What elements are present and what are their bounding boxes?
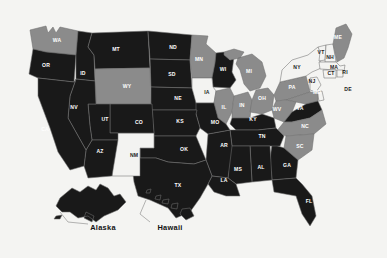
state-ND[interactable] [148, 31, 192, 60]
us-map-container: WAORIDMTWYNDSDNEMNWIIAMIILINOHPANYVTNHMA… [0, 0, 387, 258]
state-SD[interactable] [150, 59, 192, 88]
state-MS[interactable] [228, 146, 252, 184]
us-choropleth-map: WAORIDMTWYNDSDNEMNWIIAMIILINOHPANYVTNHMA… [0, 0, 387, 258]
state-RI[interactable] [337, 70, 343, 77]
state-IN[interactable] [232, 92, 252, 118]
state-AL[interactable] [250, 146, 272, 182]
state-MT[interactable] [88, 31, 150, 69]
state-WY[interactable] [95, 68, 151, 104]
state-TN[interactable] [230, 128, 284, 146]
inset-label-hawaii: Hawaii [157, 223, 182, 232]
state-CT[interactable] [323, 70, 336, 78]
state-NE[interactable] [151, 87, 197, 110]
state-KS[interactable] [152, 110, 200, 136]
state-IA[interactable] [192, 78, 216, 103]
state-CO[interactable] [110, 104, 154, 133]
inset-label-alaska: Alaska [90, 223, 116, 232]
